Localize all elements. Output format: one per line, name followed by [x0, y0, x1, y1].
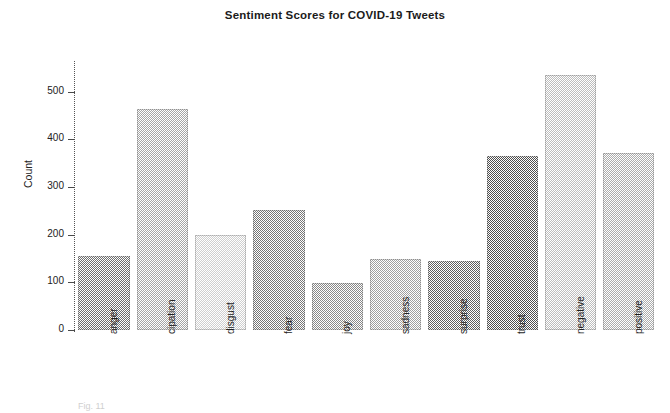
x-axis-tick-label: sadness: [400, 297, 411, 334]
y-axis-tick-label: 0: [24, 323, 64, 334]
chart-title: Sentiment Scores for COVID-19 Tweets: [0, 9, 670, 21]
bar: [487, 156, 538, 331]
y-axis-tick: [68, 92, 75, 93]
y-axis-tick: [68, 235, 75, 236]
x-axis-tick-label: negative: [575, 296, 586, 334]
x-axis-tick-label: positive: [633, 300, 644, 334]
bar-series: [75, 63, 658, 330]
y-axis-tick: [68, 139, 75, 140]
bar: [428, 261, 479, 330]
bar: [137, 109, 188, 330]
figure-caption: Fig. 11: [78, 401, 378, 411]
plot-area: [75, 63, 658, 330]
x-axis-tick-label: joy: [341, 321, 352, 334]
bar: [253, 210, 304, 330]
bar: [603, 153, 654, 330]
y-axis-tick-label: 400: [24, 132, 64, 143]
x-axis-tick-label: cipation: [166, 300, 177, 334]
x-axis-tick-label: disgust: [225, 302, 236, 334]
y-axis-tick: [68, 330, 75, 331]
bar: [312, 283, 363, 330]
figure-container: Sentiment Scores for COVID-19 Tweets Cou…: [0, 0, 670, 413]
y-axis-tick: [68, 187, 75, 188]
bar: [370, 259, 421, 330]
x-axis-tick-label: trust: [516, 315, 527, 334]
bar: [545, 75, 596, 330]
bar: [78, 256, 129, 330]
y-axis-tick-label: 100: [24, 275, 64, 286]
x-axis-tick-label: fear: [283, 317, 294, 334]
y-axis-label: Count: [22, 134, 34, 214]
y-axis-tick: [68, 282, 75, 283]
y-axis-tick-label: 300: [24, 180, 64, 191]
x-axis-tick-label: anger: [108, 308, 119, 334]
y-axis-tick-label: 200: [24, 228, 64, 239]
y-axis-tick-label: 500: [24, 85, 64, 96]
x-axis-tick-label: surprise: [458, 298, 469, 334]
bar: [195, 235, 246, 330]
x-axis-labels: angercipationdisgustfearjoysadnesssurpri…: [75, 330, 658, 410]
